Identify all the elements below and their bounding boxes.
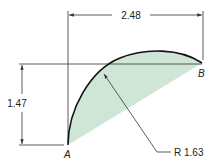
arc-segment-drawing: 2.48 1.47 R 1.63 A B — [0, 0, 221, 167]
point-a-label: A — [63, 149, 71, 160]
shaded-segment — [68, 51, 202, 145]
radius-label: R 1.63 — [174, 147, 204, 158]
dimension-vertical-label: 1.47 — [7, 98, 27, 109]
dimension-horizontal-label: 2.48 — [121, 10, 141, 21]
point-b-label: B — [198, 68, 205, 79]
